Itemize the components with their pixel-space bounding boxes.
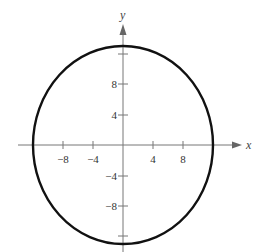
y-tick-label: 8 [112,78,118,90]
x-tick-label: −4 [87,153,99,165]
x-axis-arrow-icon [232,142,242,149]
x-tick-label: 4 [150,153,156,165]
y-tick-label: −8 [105,200,117,212]
x-tick-label: −8 [57,153,69,165]
x-tick-label: 8 [180,153,186,165]
y-tick-label: −4 [105,170,117,182]
ellipse-graph: −8 −4 4 8 8 4 −4 −8 x y [0,0,258,252]
y-tick-label: 4 [112,109,118,121]
y-axis-label: y [119,8,126,22]
x-axis-label: x [245,138,252,152]
y-axis-arrow-icon [120,24,127,35]
